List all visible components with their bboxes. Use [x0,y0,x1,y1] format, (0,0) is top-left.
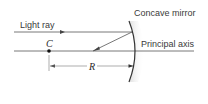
concave-mirror-label: Concave mirror [134,8,196,18]
light-ray-label: Light ray [20,20,55,30]
center-label: C [46,38,53,49]
concave-mirror-diagram: Concave mirror Light ray Principal axis … [0,0,208,104]
radius-label: R [88,61,95,72]
light-ray-arrow-icon [60,30,65,34]
mirror-shading [129,21,144,82]
reflected-ray-arrow-icon [93,47,100,52]
center-of-curvature-point [47,49,51,53]
principal-axis-label: Principal axis [141,39,195,49]
radius-arrow-left-icon [50,64,55,67]
radius-arrow-right-icon [129,64,134,67]
